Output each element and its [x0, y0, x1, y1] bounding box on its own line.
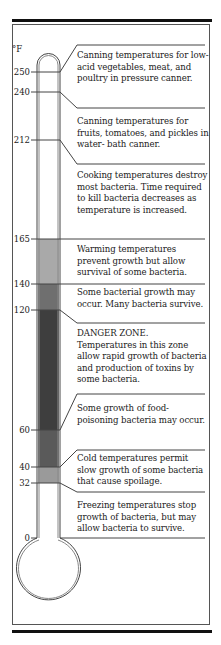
- scale-label-250: 250: [6, 67, 30, 77]
- note-cold: Cold temperatures permit slow growth of …: [77, 453, 209, 488]
- scale-label-32: 32: [6, 478, 30, 488]
- scale-label-140: 140: [6, 279, 30, 289]
- note-cooking: Cooking temperatures destroy most bacter…: [77, 170, 209, 216]
- scale-label-120: 120: [6, 305, 30, 315]
- scale-label-165: 165: [6, 234, 30, 244]
- note-pressure-canner: Canning temperatures for low-acid vegeta…: [77, 50, 209, 85]
- scale-ticks: [31, 72, 37, 538]
- note-danger-zone: DANGER ZONE. Temperatures in this zone a…: [77, 328, 209, 386]
- scale-label-240: 240: [6, 87, 30, 97]
- scale-label-212: 212: [6, 135, 30, 145]
- note-some-growth: Some bacterial growth may occur. Many ba…: [77, 287, 209, 310]
- band-some-growth: [38, 284, 59, 310]
- band-warming: [38, 239, 59, 284]
- note-freezing: Freezing temperatures stop growth of bac…: [77, 500, 209, 535]
- scale-label-40: 40: [6, 462, 30, 472]
- note-warming: Warming temperatures prevent growth but …: [77, 244, 209, 279]
- note-food-poisoning: Some growth of food-poisoning bacteria m…: [77, 403, 209, 426]
- note-water-bath: Canning temperatures for fruits, tomatoe…: [77, 116, 209, 151]
- scale-label-0: 0: [6, 533, 30, 543]
- scale-label-60: 60: [6, 425, 30, 435]
- band-danger-zone: [38, 310, 59, 430]
- band-food-poisoning: [38, 430, 59, 467]
- unit-label: °F: [12, 44, 22, 54]
- thermometer-bulb: [16, 538, 80, 600]
- thermometer-diagram: [0, 0, 221, 645]
- band-cold: [38, 467, 59, 483]
